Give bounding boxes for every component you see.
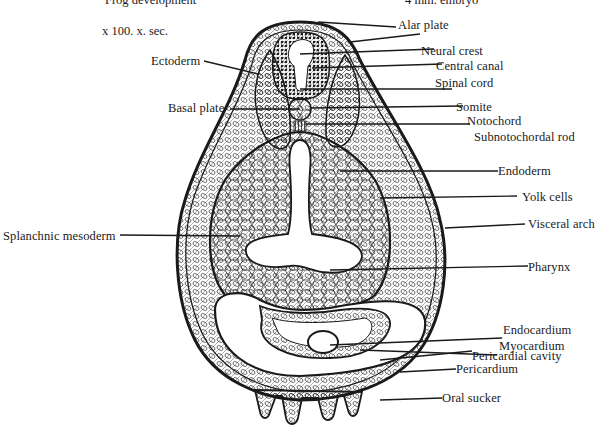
embryo-cross-section-diagram: Frog development 4 mm. embryo x 100. x. … (0, 0, 602, 429)
label-endoderm: Endoderm (498, 164, 551, 178)
label-subnotochordal-rod: Subnotochordal rod (474, 130, 575, 144)
label-pericardial-cavity: Pericardial cavity (472, 349, 562, 363)
label-notochord: Notochord (467, 114, 521, 128)
label-alar-plate: Alar plate (398, 18, 449, 32)
label-somite: Somite (456, 100, 492, 114)
label-yolk-cells: Yolk cells (522, 190, 573, 204)
label-pharynx: Pharynx (528, 260, 570, 274)
label-ectoderm: Ectoderm (151, 54, 200, 68)
label-pericardium: Pericardium (456, 362, 518, 376)
endocardium-shape (308, 331, 338, 353)
label-neural-crest: Neural crest (421, 44, 483, 58)
label-spinal-cord: Spinal cord (435, 76, 493, 90)
label-central-canal: Central canal (436, 59, 504, 73)
subnotochordal-rod-shape (294, 121, 306, 131)
label-visceral-arch: Visceral arch (528, 217, 595, 231)
label-splanchnic-mesoderm: Splanchnic mesoderm (3, 229, 116, 243)
label-endocardium: Endocardium (503, 323, 571, 337)
label-basal-plate: Basal plate (168, 101, 224, 115)
label-oral-sucker: Oral sucker (442, 391, 501, 405)
oral-sucker-shape (255, 390, 362, 424)
